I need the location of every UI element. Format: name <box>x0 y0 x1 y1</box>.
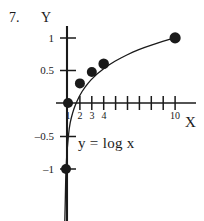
y-tick-label-0-5: 0.5 <box>22 65 54 76</box>
data-point-3-0_477 <box>87 67 97 77</box>
y-axis-label: Y <box>41 11 51 25</box>
x-axis-label: X <box>185 115 196 130</box>
y-tick-label-neg-1: –1 <box>22 164 54 175</box>
x-tick-label-4: 4 <box>98 111 110 121</box>
x-tick-label-1: 1 <box>62 111 74 121</box>
equation-label: y = log x <box>78 136 135 151</box>
data-point-2-0_301 <box>75 78 85 88</box>
x-tick-label-10: 10 <box>168 111 182 121</box>
log-curve-path <box>65 38 175 221</box>
problem-number: 7. <box>9 11 20 25</box>
x-tick-label-3: 3 <box>86 111 98 121</box>
x-tick-label-2: 2 <box>74 111 86 121</box>
data-point-1-0 <box>63 98 73 108</box>
data-point-10-1 <box>170 32 181 43</box>
data-point-4-0_602 <box>98 59 109 70</box>
y-tick-label-1: 1 <box>22 33 54 44</box>
data-point-0_1-neg1 <box>61 164 71 174</box>
log-graph-figure: 7. Y X y = log x 1 0.5 –0.5 –1 1 2 3 4 1… <box>0 0 204 221</box>
y-tick-label-neg-0-5: –0.5 <box>22 131 54 142</box>
